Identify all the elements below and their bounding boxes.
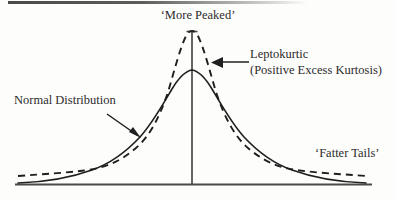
label-more-peaked: ‘More Peaked’ <box>0 8 396 23</box>
normal-distribution-arrow <box>107 114 141 138</box>
kurtosis-diagram: ‘More Peaked’ Leptokurtic (Positive Exce… <box>0 0 396 201</box>
label-leptokurtic-line2: (Positive Excess Kurtosis) <box>250 63 382 78</box>
label-leptokurtic-line1: Leptokurtic <box>250 47 308 61</box>
leptokurtic-arrow <box>211 57 249 68</box>
label-fatter-tails: ‘Fatter Tails’ <box>315 146 380 161</box>
label-leptokurtic: Leptokurtic (Positive Excess Kurtosis) <box>250 47 382 78</box>
label-normal-distribution: Normal Distribution <box>14 93 116 108</box>
